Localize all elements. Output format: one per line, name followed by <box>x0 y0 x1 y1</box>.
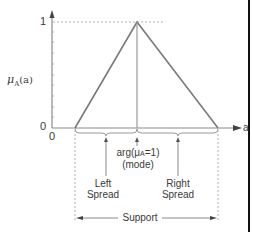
x-origin-label: 0 <box>49 131 55 142</box>
mode-label-line2: (mode) <box>117 159 160 170</box>
y-axis-arrow-icon <box>50 10 55 18</box>
x-axis-label: a <box>243 122 249 133</box>
mode-arrow-icon <box>135 137 139 142</box>
support-left-arrow-icon <box>76 216 83 220</box>
y-axis-label-arg: (a) <box>19 74 33 85</box>
right-spread-arrow-icon <box>176 137 180 142</box>
left-spread-label: Left Spread <box>87 178 119 200</box>
right-spread-brace <box>137 129 218 136</box>
y-tick-0: 0 <box>40 121 46 132</box>
x-axis-arrow-icon <box>233 125 242 131</box>
y-axis-label: μA(a) <box>7 74 33 90</box>
left-spread-brace <box>75 129 137 136</box>
mode-label: arg(μA=1) (mode) <box>117 147 160 170</box>
triangular-membership-curve <box>75 22 218 128</box>
left-spread-arrow-icon <box>104 137 108 142</box>
support-right-arrow-icon <box>210 216 217 220</box>
membership-function-diagram <box>0 0 253 232</box>
support-label: Support <box>122 212 157 223</box>
mode-label-line1: arg(μA=1) <box>117 147 160 159</box>
right-spread-label: Right Spread <box>162 178 194 200</box>
y-tick-1: 1 <box>40 16 46 27</box>
